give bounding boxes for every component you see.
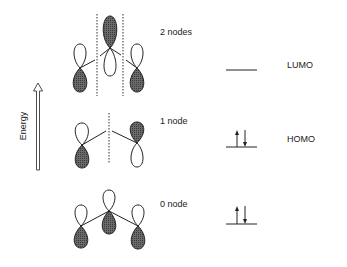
- orbitals-1-node: [75, 113, 144, 168]
- orbital-lobe-empty: [131, 143, 143, 167]
- orbitals-2-nodes: [73, 14, 144, 96]
- orbital-lobe-shaded: [75, 145, 89, 168]
- node-label-0: 0 node: [160, 199, 188, 209]
- orbital-lobe-shaded: [130, 68, 144, 92]
- orbital-lobe-shaded: [131, 226, 145, 249]
- orbital-lobe-empty: [75, 123, 88, 145]
- orbital-lobe-empty: [74, 44, 86, 68]
- node-label-1: 1 node: [160, 116, 188, 126]
- energy-level-bonding: [226, 206, 257, 224]
- orbital-lobe-empty: [75, 205, 87, 226]
- orbital-lobe-empty: [103, 190, 115, 211]
- energy-arrow-icon: [34, 83, 43, 170]
- orbital-lobe-shaded: [73, 68, 87, 92]
- homo-label: HOMO: [287, 134, 315, 144]
- orbital-lobe-empty: [104, 48, 116, 76]
- orbital-lobe-empty: [132, 205, 144, 226]
- spin-down-arrow-icon: [243, 130, 247, 147]
- spin-up-arrow-icon: [235, 206, 239, 224]
- energy-axis-label: Energy: [18, 112, 28, 141]
- lumo-label: LUMO: [287, 60, 313, 70]
- orbital-lobe-shaded: [102, 211, 116, 234]
- node-label-2: 2 nodes: [160, 27, 192, 37]
- orbitals-0-node: [74, 190, 145, 249]
- orbital-lobe-shaded: [103, 16, 117, 48]
- energy-level-homo: [226, 130, 257, 147]
- spin-up-arrow-icon: [235, 130, 239, 147]
- spin-down-arrow-icon: [243, 206, 247, 224]
- orbital-lobe-shaded: [74, 226, 88, 248]
- orbital-lobe-shaded: [130, 122, 144, 143]
